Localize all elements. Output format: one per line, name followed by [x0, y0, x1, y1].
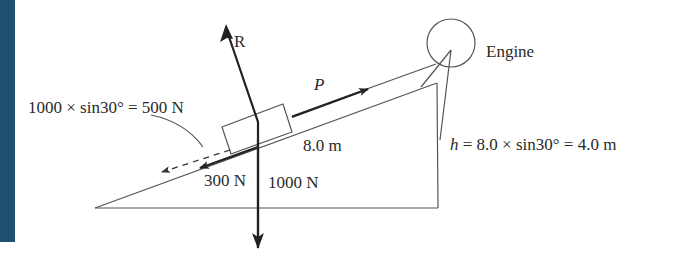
incline-diagram: R P Engine 8.0 m 1000 × sin30° = 500 N 3…	[0, 0, 674, 261]
incline-height-side	[437, 83, 438, 208]
reaction-force-arrow	[226, 28, 258, 248]
gravity-component-label: 1000 × sin30° = 500 N	[28, 98, 184, 117]
slope-length-label: 8.0 m	[303, 136, 342, 155]
height-variable: h	[450, 135, 459, 154]
pull-force-label: P	[313, 75, 324, 94]
engine-support-left	[421, 50, 451, 87]
engine-circle	[427, 19, 475, 67]
engine-label: Engine	[486, 42, 534, 61]
height-formula: = 8.0 × sin30° = 4.0 m	[459, 135, 617, 154]
label-leader-curve	[151, 115, 203, 147]
height-label: h = 8.0 × sin30° = 4.0 m	[450, 135, 616, 154]
friction-label: 300 N	[204, 171, 246, 190]
reaction-label: R	[234, 32, 246, 51]
weight-label: 1000 N	[268, 173, 319, 192]
engine-support-right	[440, 50, 451, 140]
engine	[421, 19, 475, 140]
reaction-arrowhead-icon	[220, 24, 233, 42]
